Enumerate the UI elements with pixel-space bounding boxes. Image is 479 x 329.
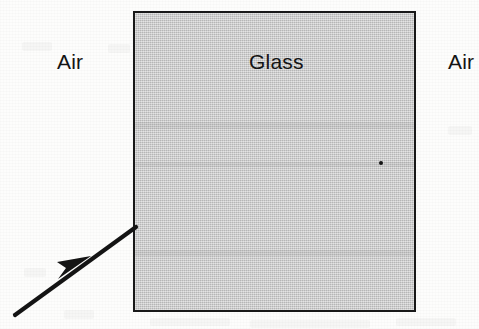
scan-band: [135, 162, 414, 167]
scan-band: [135, 250, 414, 256]
scan-smudge: [22, 42, 52, 51]
label-air-left: Air: [57, 51, 83, 72]
glass-point-marker: [379, 161, 383, 165]
scan-smudge: [108, 44, 130, 53]
scan-band: [135, 122, 414, 129]
scan-smudge: [448, 126, 472, 135]
optics-figure-root: Air Glass Air: [0, 0, 479, 329]
incident-ray: [0, 200, 160, 329]
ray-line: [15, 227, 136, 315]
label-glass: Glass: [249, 51, 304, 72]
scan-smudge: [396, 318, 456, 326]
scan-smudge: [150, 318, 230, 326]
scan-smudge: [250, 320, 370, 328]
label-air-right: Air: [448, 51, 474, 72]
arrowhead-icon: [57, 256, 91, 279]
